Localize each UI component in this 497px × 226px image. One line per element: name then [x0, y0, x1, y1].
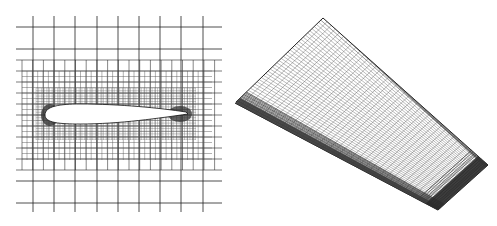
airfoil-mesh-panel	[0, 0, 230, 226]
wing-mesh-figure	[230, 0, 497, 226]
wing-mesh-panel	[230, 0, 497, 226]
airfoil-mesh-figure	[0, 0, 230, 226]
